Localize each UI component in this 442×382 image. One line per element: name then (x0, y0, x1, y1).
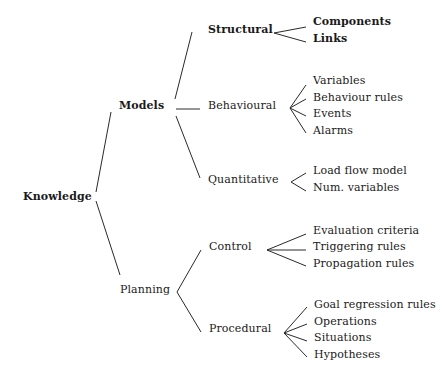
node-knowledge: Knowledge (23, 190, 92, 204)
edge-knowledge-models (96, 112, 111, 192)
edge-models-quantitative (176, 116, 200, 178)
node-quantitative: Quantitative (208, 173, 279, 187)
edge-models-structural (175, 32, 192, 99)
node-models: Models (119, 99, 164, 113)
node-structural: Structural (208, 23, 273, 37)
leaf-operations: Operations (314, 315, 377, 329)
node-procedural: Procedural (209, 322, 271, 336)
leaf-behaviour-rules: Behaviour rules (313, 91, 403, 105)
edge-structural-links (274, 33, 306, 42)
edge-quantitative-load-flow (291, 173, 306, 182)
leaf-alarms: Alarms (313, 124, 353, 138)
leaf-events: Events (313, 107, 352, 121)
edge-planning-procedural (177, 292, 201, 332)
edge-procedural-goal-regression (284, 307, 307, 333)
edge-behavioural-behaviour-rules (290, 99, 306, 108)
node-control: Control (209, 240, 252, 254)
leaf-variables: Variables (313, 74, 365, 88)
leaf-load-flow-model: Load flow model (313, 164, 407, 178)
leaf-components: Components (313, 15, 391, 29)
node-behavioural: Behavioural (208, 99, 276, 113)
edge-quantitative-num-variables (291, 182, 306, 191)
edge-planning-control (177, 250, 201, 292)
edge-control-evaluation (267, 234, 306, 250)
leaf-evaluation-criteria: Evaluation criteria (313, 224, 419, 238)
edge-structural-components (274, 27, 306, 33)
leaf-triggering-rules: Triggering rules (313, 240, 406, 254)
edge-behavioural-variables (290, 85, 306, 108)
edge-knowledge-planning (96, 201, 120, 275)
leaf-goal-regression-rules: Goal regression rules (314, 298, 436, 312)
leaf-propagation-rules: Propagation rules (313, 257, 414, 271)
knowledge-tree-diagram: Knowledge Models Planning Structural Beh… (0, 0, 442, 382)
leaf-num-variables: Num. variables (313, 181, 399, 195)
edge-control-propagation (267, 250, 306, 266)
leaf-links: Links (313, 32, 347, 46)
leaf-situations: Situations (314, 331, 371, 345)
leaf-hypotheses: Hypotheses (314, 348, 380, 362)
node-planning: Planning (120, 283, 170, 297)
